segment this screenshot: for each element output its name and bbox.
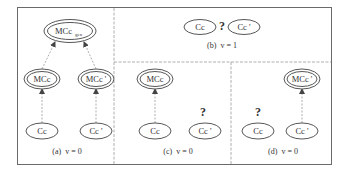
node-cc: Cc bbox=[184, 20, 216, 35]
node-mcc: MCc bbox=[24, 69, 60, 89]
node-subscript: gen bbox=[75, 32, 83, 37]
node-label: Cc ' bbox=[237, 22, 251, 32]
node-label: Cc ' bbox=[198, 126, 212, 136]
panel-c: MCc Cc ? Cc ' (c) v = 0 bbox=[137, 69, 221, 156]
node-label: MCc bbox=[147, 74, 164, 84]
panel-caption: (a) v = 0 bbox=[52, 147, 81, 156]
node-label: Cc bbox=[37, 126, 47, 136]
question-mark: ? bbox=[200, 105, 206, 119]
panel-a: MCc gen MCc MCc ' Cc Cc ' (a) v = 0 bbox=[24, 20, 114, 157]
node-label: Cc bbox=[195, 22, 205, 32]
node-cc-prime: Cc ' bbox=[286, 123, 318, 139]
node-cc-prime: Cc ' bbox=[189, 123, 221, 139]
node-mcc-prime: MCc ' bbox=[284, 69, 320, 89]
panel-caption: (d) v = 0 bbox=[268, 147, 298, 156]
node-label: Cc ' bbox=[89, 126, 103, 136]
node-label: Cc ' bbox=[295, 126, 309, 136]
panel-d: MCc ' ? Cc Cc ' (d) v = 0 bbox=[242, 69, 320, 156]
edge-mccprime-to-mccgen bbox=[84, 42, 96, 69]
node-cc: Cc bbox=[139, 123, 171, 139]
panel-caption: (b) v = 1 bbox=[207, 41, 237, 50]
question-mark: ? bbox=[219, 19, 225, 33]
figure-canvas: MCc gen MCc MCc ' Cc Cc ' (a) v = 0 bbox=[0, 0, 348, 176]
question-mark: ? bbox=[255, 105, 261, 119]
node-label: Cc bbox=[253, 126, 263, 136]
node-label: Cc bbox=[150, 126, 160, 136]
node-cc-prime: Cc ' bbox=[228, 20, 260, 35]
node-label: MCc bbox=[55, 26, 72, 36]
node-mcc-prime: MCc ' bbox=[78, 69, 114, 89]
edge-mcc-to-mccgen bbox=[42, 42, 55, 69]
node-cc: Cc bbox=[242, 123, 274, 139]
panel-caption: (c) v = 0 bbox=[163, 147, 192, 156]
node-label: MCc ' bbox=[292, 74, 313, 84]
node-cc: Cc bbox=[26, 123, 58, 139]
node-mcc: MCc bbox=[137, 69, 173, 89]
node-mcc-gen: MCc gen bbox=[44, 20, 96, 43]
node-label: MCc bbox=[34, 74, 51, 84]
node-label: MCc ' bbox=[86, 74, 107, 84]
panel-b: Cc ? Cc ' (b) v = 1 bbox=[184, 19, 260, 50]
node-cc-prime: Cc ' bbox=[80, 123, 112, 139]
